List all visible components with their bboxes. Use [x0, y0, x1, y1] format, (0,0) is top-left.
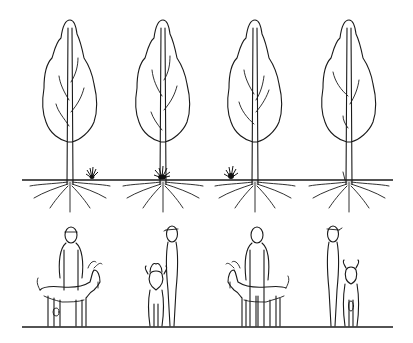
tree-3 — [215, 20, 295, 212]
goat-2 — [145, 263, 167, 326]
grass-tuft-1 — [86, 167, 98, 179]
person-3 — [245, 227, 269, 326]
goat-3 — [226, 261, 289, 326]
illustration-canvas — [0, 0, 413, 343]
person-2 — [164, 226, 178, 326]
goat-1 — [37, 261, 102, 326]
tree-1 — [30, 20, 110, 212]
illustration-svg — [0, 0, 413, 343]
person-4 — [327, 226, 342, 326]
person-1 — [59, 227, 83, 290]
tree-2 — [123, 20, 203, 212]
tree-4 — [309, 20, 389, 212]
grass-tuft-2 — [154, 166, 170, 180]
goat-4 — [343, 260, 359, 326]
grass-tuft-3 — [224, 166, 238, 179]
